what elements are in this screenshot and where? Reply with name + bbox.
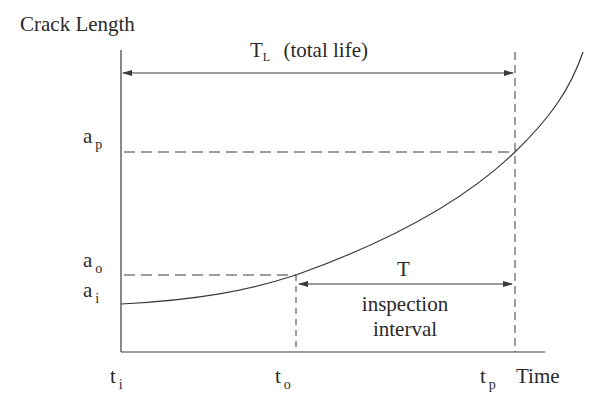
total-life-label: TL (total life)	[250, 40, 368, 61]
inspection-symbol: T	[397, 259, 410, 280]
y-tick-ap: ap	[83, 126, 102, 147]
x-tick-to: to	[275, 366, 291, 387]
inspection-label: inspection interval	[345, 292, 465, 342]
x-axis-label: Time	[516, 366, 560, 387]
y-tick-ai: ai	[83, 280, 99, 301]
y-tick-ao: ao	[83, 250, 102, 271]
crack-growth-curve	[121, 52, 583, 304]
x-tick-tp: tp	[480, 366, 496, 387]
x-tick-ti: ti	[110, 366, 123, 387]
y-axis-label: Crack Length	[20, 14, 135, 35]
